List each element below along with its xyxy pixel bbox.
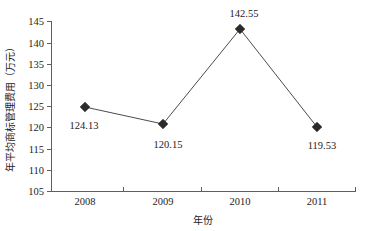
data-point-2008[interactable] [80, 102, 90, 112]
chart-canvas: 105 110 115 120 125 130 135 140 145 2008… [0, 0, 365, 231]
data-label-2008: 124.13 [70, 120, 99, 131]
y-tick-label-135: 135 [28, 59, 44, 70]
x-tick-label-2009: 2009 [153, 196, 174, 207]
x-tick-label-2011: 2011 [307, 196, 328, 207]
y-axis-title: 年平均商标管理费用（万元） [4, 42, 16, 172]
series-line [85, 29, 317, 127]
y-tick-label-130: 130 [28, 80, 44, 91]
y-tick-label-125: 125 [28, 101, 44, 112]
y-tick-label-120: 120 [28, 122, 44, 133]
y-tick-label-145: 145 [28, 16, 44, 27]
data-label-2011: 119.53 [308, 140, 337, 151]
line-chart: 105 110 115 120 125 130 135 140 145 2008… [0, 0, 365, 231]
y-tick-label-140: 140 [28, 38, 44, 49]
x-tick-label-2008: 2008 [75, 196, 96, 207]
x-tick-label-2010: 2010 [230, 196, 251, 207]
data-label-2010: 142.55 [230, 8, 259, 19]
y-tick-label-115: 115 [29, 144, 44, 155]
data-label-2009: 120.15 [154, 139, 183, 150]
data-point-2011[interactable] [312, 122, 322, 132]
y-tick-label-105: 105 [28, 186, 44, 197]
x-axis-title: 年份 [193, 214, 213, 226]
y-tick-label-110: 110 [29, 165, 44, 176]
